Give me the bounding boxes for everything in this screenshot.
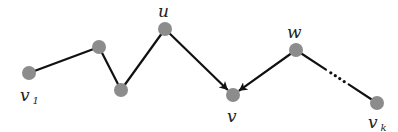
node-label-vk: vk: [368, 112, 387, 132]
ellipsis-dot: [329, 71, 332, 74]
node-label-u: u: [158, 1, 169, 21]
node-subscript-v1: 1: [33, 95, 39, 106]
node-u: [158, 22, 172, 36]
edge-a-b: [99, 47, 121, 90]
node-v1: [22, 66, 36, 80]
node-v: [226, 88, 240, 102]
path-diagram: v1uvwvk: [0, 0, 398, 132]
edge-u-v-arrow: [165, 29, 227, 89]
ellipsis-dot: [334, 74, 337, 77]
ellipsis-dot: [343, 80, 346, 83]
edge-b-u: [121, 29, 165, 90]
node-a: [92, 40, 106, 54]
node-label-v: v: [227, 106, 237, 126]
ellipsis-dot: [338, 77, 341, 80]
edge-v1-a: [29, 47, 99, 73]
node-vk: [370, 96, 384, 110]
edge-w-v-arrow: [240, 50, 296, 90]
node-subscript-vk: k: [381, 122, 387, 132]
node-label-w: w: [287, 22, 302, 42]
node-label-v1: v1: [20, 85, 39, 106]
node-w: [289, 43, 303, 57]
node-b: [114, 83, 128, 97]
